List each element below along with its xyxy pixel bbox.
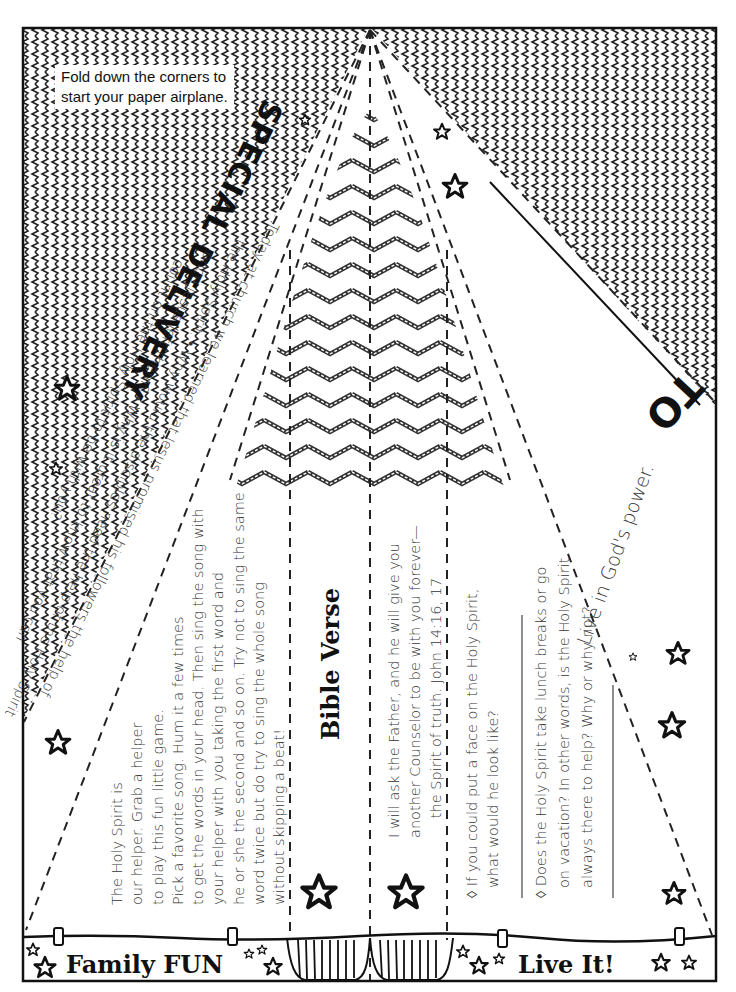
instruction-line: start your paper airplane. xyxy=(61,87,228,107)
text-line: Pick a favorite song. Hum it a few times xyxy=(168,492,188,905)
question-line: ◊ If you could put a face on the Holy Sp… xyxy=(462,589,483,898)
verse-line: I will ask the Father, and he will give … xyxy=(384,558,405,838)
live-it-question-2: ◊ Does the Holy Spirit take lunch breaks… xyxy=(530,557,599,898)
question-line: on vacation? In other words, is the Holy… xyxy=(553,557,576,898)
instruction-line: Fold down the corners to xyxy=(61,67,228,87)
family-fun-text: The Holy Spirit is our helper. Grab a he… xyxy=(107,492,290,905)
live-it-question-1: ◊ If you could put a face on the Holy Sp… xyxy=(462,589,504,898)
text-line: The Holy Spirit is xyxy=(107,492,127,905)
bible-verse-title: Bible Verse xyxy=(316,588,345,740)
question-line: what would he look like? xyxy=(483,589,504,898)
text-line: he or she the second and so on. Try not … xyxy=(229,492,249,905)
text-line: word twice but do try to sing the whole … xyxy=(249,492,269,905)
live-it-label: Live It! xyxy=(518,950,614,979)
bible-verse-text: I will ask the Father, and he will give … xyxy=(384,558,447,838)
text-line: our helper. Grab a helper xyxy=(127,492,147,905)
text-line: to get the words in your head. Then sing… xyxy=(188,492,208,905)
text-line: your helper with you taking the first wo… xyxy=(208,492,228,905)
question-line: always there to help? Why or why not? xyxy=(576,557,599,898)
text-line: to play this fun little game. xyxy=(148,492,168,905)
verse-line: the Spirit of truth. John 14:16, 17 xyxy=(426,558,447,838)
fold-instruction: Fold down the corners to start your pape… xyxy=(55,65,234,109)
question-line: ◊ Does the Holy Spirit take lunch breaks… xyxy=(530,557,553,898)
family-fun-label: Family FUN xyxy=(66,950,223,979)
text-line: without skipping a beat! xyxy=(269,492,289,905)
verse-line: another Counselor to be with you forever… xyxy=(405,558,426,838)
